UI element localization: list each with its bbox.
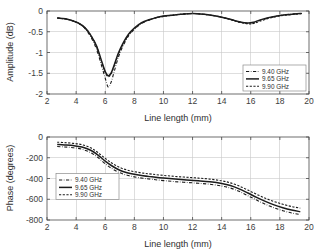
phase-chart-panel: 24681012141618200-200-400-600-800 Line l… xyxy=(0,126,320,251)
legend-label: 9.65 GHz xyxy=(262,75,289,82)
phase-ytick-label: -200 xyxy=(26,153,43,163)
phase-ytick-label: -800 xyxy=(26,215,43,225)
phase-xtick-label: 4 xyxy=(74,222,79,232)
amplitude-xtick-label: 8 xyxy=(132,96,137,106)
phase-xaxis-title: Line length (mm) xyxy=(144,239,212,249)
legend-label: 9.40 GHz xyxy=(262,68,289,75)
amplitude-xtick-label: 16 xyxy=(246,96,256,106)
legend-label: 9.90 GHz xyxy=(262,83,289,90)
figure-container: 24681012141618200-0.5-1-1.5-2 Line lengt… xyxy=(0,0,320,251)
amplitude-xtick-label: 4 xyxy=(74,96,79,106)
amplitude-xtick-label: 20 xyxy=(304,96,314,106)
amplitude-xtick-label: 12 xyxy=(188,96,198,106)
phase-xtick-label: 14 xyxy=(217,222,227,232)
amplitude-plot-svg: 24681012141618200-0.5-1-1.5-2 Line lengt… xyxy=(0,0,320,125)
phase-ytick-label: 0 xyxy=(38,132,43,142)
phase-xtick-label: 20 xyxy=(304,222,314,232)
amplitude-xtick-label: 14 xyxy=(217,96,227,106)
amplitude-chart-panel: 24681012141618200-0.5-1-1.5-2 Line lengt… xyxy=(0,0,320,125)
phase-plot-svg: 24681012141618200-200-400-600-800 Line l… xyxy=(0,126,320,251)
phase-xtick-label: 16 xyxy=(246,222,256,232)
amplitude-ytick-label: -1 xyxy=(35,48,43,58)
phase-xtick-label: 2 xyxy=(45,222,50,232)
phase-xtick-label: 18 xyxy=(275,222,285,232)
amplitude-xtick-label: 2 xyxy=(45,96,50,106)
amplitude-ytick-label: -0.5 xyxy=(28,27,43,37)
phase-ytick-label: -600 xyxy=(26,194,43,204)
amplitude-legend: 9.40 GHz9.65 GHz9.90 GHz xyxy=(243,65,306,91)
phase-xtick-label: 6 xyxy=(103,222,108,232)
legend-label: 9.90 GHz xyxy=(75,191,102,198)
phase-yaxis-title: Phase (degrees) xyxy=(5,145,15,212)
amplitude-yaxis-title: Amplitude (dB) xyxy=(5,22,15,82)
amplitude-xtick-label: 10 xyxy=(159,96,169,106)
legend-label: 9.65 GHz xyxy=(75,184,102,191)
amplitude-xaxis-title: Line length (mm) xyxy=(144,113,212,123)
phase-ytick-label: -400 xyxy=(26,174,43,184)
amplitude-ytick-label: 0 xyxy=(38,6,43,16)
phase-xtick-label: 10 xyxy=(159,222,169,232)
phase-legend: 9.40 GHz9.65 GHz9.90 GHz xyxy=(56,174,119,200)
legend-label: 9.40 GHz xyxy=(75,176,102,183)
amplitude-ytick-label: -2 xyxy=(35,89,43,99)
phase-xtick-label: 8 xyxy=(132,222,137,232)
amplitude-xtick-label: 6 xyxy=(103,96,108,106)
phase-xtick-label: 12 xyxy=(188,222,198,232)
amplitude-xtick-label: 18 xyxy=(275,96,285,106)
amplitude-ytick-label: -1.5 xyxy=(28,68,43,78)
